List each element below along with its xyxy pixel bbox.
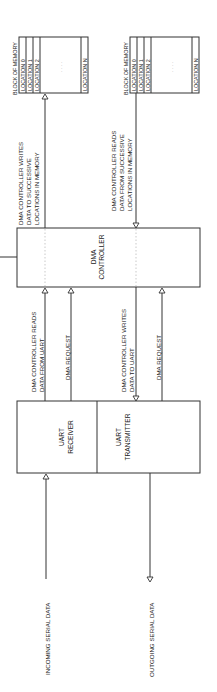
uart-frame [17,401,200,473]
arrow-down-icon [133,223,139,228]
memory-block-1-ellipsis: . . . . [57,62,63,72]
label-dma-reads-uart-1: DMA CONTROLLER READS [30,312,37,392]
label-receiver-dma-request: DMA REQUEST [64,335,71,380]
memory-block-1-location-0: LOCATION 0 [20,59,26,91]
arrow-up-icon [68,288,74,293]
memory-block-2: BLOCK OF MEMORY LOCATION 0 LOCATION 1 LO… [123,37,199,95]
label-dma-reads-memory-3: LOCATIONS IN MEMORY [126,138,133,211]
connection-receiver-dma-request: DMA REQUEST [64,288,74,401]
memory-block-1: BLOCK OF MEMORY LOCATION 0 LOCATION 1 LO… [12,37,88,95]
label-dma-writes-memory-3: LOCATIONS IN MEMORY [33,152,40,225]
arrow-up-icon [42,288,48,293]
memory-block-2-location-2: LOCATION 2 [145,59,151,91]
uart-block: UART RECEIVER UART TRANSMITTER [17,401,200,473]
connection-incoming-serial: INCOMING SERIAL DATA [43,474,51,675]
connection-outgoing-serial: OUTGOING SERIAL DATA [147,473,155,677]
label-transmitter-dma-request: DMA REQUEST [155,335,162,380]
memory-block-2-title: BLOCK OF MEMORY [123,42,129,95]
label-dma-writes-memory-1: DMA CONTROLLER WRITES [17,142,24,225]
dma-controller-label-2: CONTROLLER [98,234,105,279]
label-outgoing-serial-data: OUTGOING SERIAL DATA [148,602,155,677]
uart-transmitter-label-2: TRANSMITTER [124,413,131,460]
arrow-up-icon [159,288,165,293]
uart-transmitter-label-1: UART [115,428,122,446]
uart-receiver-label-1: UART [58,428,65,446]
memory-block-1-location-1: LOCATION 1 [27,59,33,91]
arrow-up-icon [43,474,49,479]
dma-controller-block: DMA CONTROLLER [0,228,200,287]
memory-block-1-location-2: LOCATION 2 [34,59,40,91]
label-dma-writes-memory-2: DATA TO SUCCESSIVE [25,158,32,225]
dma-uart-diagram: BLOCK OF MEMORY LOCATION 0 LOCATION 1 LO… [0,0,217,692]
memory-block-2-location-0: LOCATION 0 [131,59,137,91]
arrow-down-icon [147,577,153,582]
dma-controller-frame [17,228,200,287]
label-dma-writes-uart-1: DMA CONTROLLER WRITES [120,309,127,392]
memory-block-2-location-n: LOCATION N [193,58,199,91]
label-dma-reads-memory-2: DATA FROM SUCCESSIVE [118,134,125,211]
arrow-up-icon [42,94,48,99]
dma-controller-label-1: DMA [90,249,97,264]
label-dma-writes-uart-2: DATA TO UART [128,348,135,392]
uart-receiver-label-2: RECEIVER [67,420,74,454]
memory-block-1-location-n: LOCATION N [82,58,88,91]
connection-memory-to-dma-read: DMA CONTROLLER READS DATA FROM SUCCESSIV… [110,93,139,228]
connection-dma-to-uart-write: DMA CONTROLLER WRITES DATA TO UART [120,287,139,401]
memory-block-2-location-1: LOCATION 1 [138,59,144,91]
memory-block-1-title: BLOCK OF MEMORY [12,42,18,95]
label-dma-reads-uart-2: DATA FROM UART [38,338,45,392]
label-dma-reads-memory-1: DMA CONTROLLER READS [110,131,117,211]
label-incoming-serial-data: INCOMING SERIAL DATA [44,602,51,675]
arrow-down-icon [133,396,139,401]
memory-block-2-ellipsis: . . . . [168,62,174,72]
connection-transmitter-dma-request: DMA REQUEST [155,288,165,401]
connection-uart-to-dma-read: DMA CONTROLLER READS DATA FROM UART [30,288,48,401]
connection-dma-to-memory-write: DMA CONTROLLER WRITES DATA TO SUCCESSIVE… [17,94,48,228]
